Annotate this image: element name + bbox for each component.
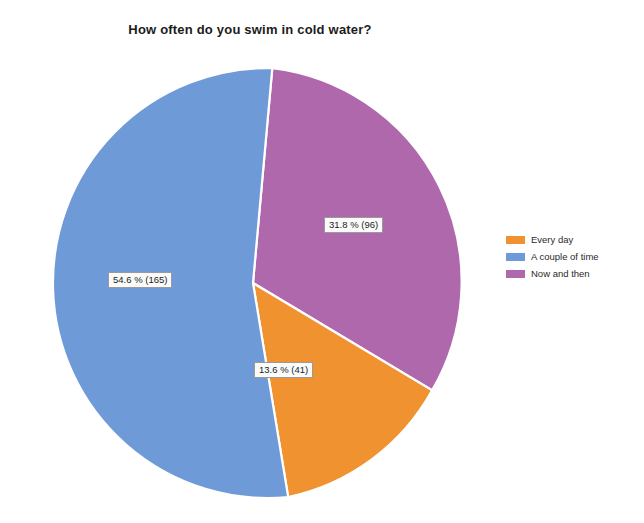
legend-label-a-couple-of-time: A couple of time bbox=[531, 252, 599, 262]
legend-item-every-day[interactable]: Every day bbox=[506, 232, 638, 248]
chart-legend: Every day A couple of time Now and then bbox=[506, 232, 638, 283]
legend-swatch-icon-now-and-then bbox=[506, 270, 525, 278]
legend-swatch-icon-a-couple-of-time bbox=[506, 253, 525, 261]
pie-chart-figure: How often do you swim in cold water? 31.… bbox=[0, 0, 644, 523]
legend-label-every-day: Every day bbox=[531, 235, 573, 245]
legend-item-now-and-then[interactable]: Now and then bbox=[506, 266, 638, 282]
legend-swatch-icon-every-day bbox=[506, 236, 525, 244]
slice-label-now-and-then: 31.8 % (96) bbox=[324, 217, 383, 233]
slice-label-a-couple-of-time: 54.6 % (165) bbox=[108, 272, 172, 288]
legend-item-a-couple-of-time[interactable]: A couple of time bbox=[506, 249, 638, 265]
slice-label-every-day: 13.6 % (41) bbox=[254, 362, 313, 378]
legend-label-now-and-then: Now and then bbox=[531, 269, 590, 279]
